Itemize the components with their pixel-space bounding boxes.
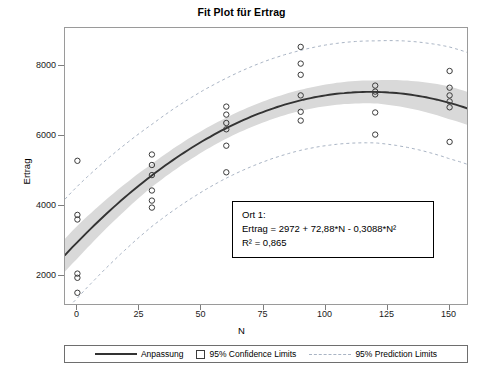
x-tick-label: 50 bbox=[195, 309, 205, 319]
annotation-line-location: Ort 1: bbox=[242, 208, 433, 222]
x-tick-mark bbox=[138, 305, 139, 310]
legend-dashed-line-icon bbox=[309, 354, 351, 355]
data-point-marker bbox=[298, 118, 303, 123]
x-tick-label: 150 bbox=[441, 309, 456, 319]
legend-item[interactable]: 95% Confidence Limits bbox=[196, 349, 296, 359]
y-tick-label: 4000 bbox=[20, 200, 56, 210]
y-tick-label: 6000 bbox=[20, 130, 56, 140]
data-point-marker bbox=[149, 205, 154, 210]
x-tick-label: 75 bbox=[258, 309, 268, 319]
data-point-marker bbox=[447, 68, 452, 73]
x-tick-mark bbox=[449, 305, 450, 310]
data-point-marker bbox=[149, 188, 154, 193]
data-point-marker bbox=[224, 143, 229, 148]
y-tick-label: 2000 bbox=[20, 270, 56, 280]
x-tick-label: 25 bbox=[133, 309, 143, 319]
data-point-marker bbox=[447, 139, 452, 144]
legend-item[interactable]: 95% Prediction Limits bbox=[309, 349, 437, 359]
data-point-marker bbox=[298, 72, 303, 77]
chart-title: Fit Plot für Ertrag bbox=[0, 6, 483, 18]
fit-plot-figure: Fit Plot für Ertrag Ertrag N 20004000600… bbox=[0, 0, 483, 374]
legend-label: 95% Confidence Limits bbox=[209, 349, 296, 359]
data-point-marker bbox=[149, 152, 154, 157]
data-point-marker bbox=[224, 170, 229, 175]
legend-label: 95% Prediction Limits bbox=[355, 349, 437, 359]
x-tick-mark bbox=[325, 305, 326, 310]
annotation-line-equation: Ertrag = 2972 + 72,88*N - 0,3088*N² bbox=[242, 222, 433, 236]
x-tick-label: 125 bbox=[379, 309, 394, 319]
legend-solid-line-icon bbox=[95, 353, 137, 355]
x-tick-label: 100 bbox=[317, 309, 332, 319]
data-point-marker bbox=[149, 198, 154, 203]
x-tick-mark bbox=[200, 305, 201, 310]
data-point-marker bbox=[75, 158, 80, 163]
data-point-marker bbox=[224, 104, 229, 109]
legend-label: Anpassung bbox=[141, 349, 184, 359]
plot-canvas bbox=[65, 28, 467, 304]
plot-graphics bbox=[65, 28, 467, 304]
legend-square-icon bbox=[196, 350, 205, 359]
data-point-marker bbox=[373, 132, 378, 137]
chart-legend: Anpassung95% Confidence Limits95% Predic… bbox=[64, 345, 468, 363]
data-point-marker bbox=[75, 290, 80, 295]
annotation-line-r2: R² = 0,865 bbox=[242, 236, 433, 250]
legend-item[interactable]: Anpassung bbox=[95, 349, 184, 359]
x-tick-mark bbox=[76, 305, 77, 310]
x-tick-mark bbox=[263, 305, 264, 310]
y-tick-label: 8000 bbox=[20, 60, 56, 70]
regression-annotation-box: Ort 1: Ertrag = 2972 + 72,88*N - 0,3088*… bbox=[232, 201, 434, 258]
x-tick-label: 0 bbox=[74, 309, 79, 319]
data-point-marker bbox=[298, 61, 303, 66]
data-point-marker bbox=[373, 110, 378, 115]
x-tick-mark bbox=[387, 305, 388, 310]
plot-area bbox=[64, 27, 468, 305]
data-point-marker bbox=[224, 112, 229, 117]
data-point-marker bbox=[298, 44, 303, 49]
x-axis-label: N bbox=[0, 325, 483, 336]
